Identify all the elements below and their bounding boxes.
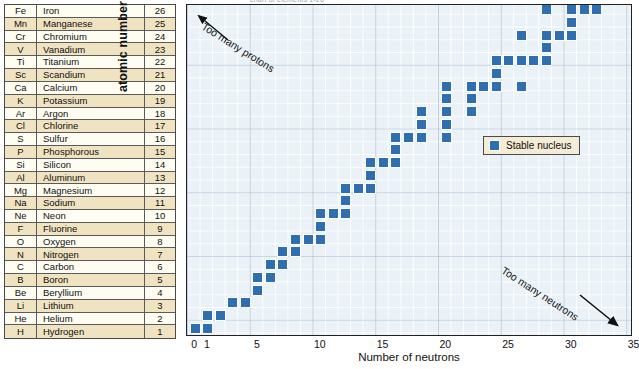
data-point: [466, 81, 477, 92]
element-name: Sulfur: [37, 133, 145, 145]
element-name: Silicon: [37, 159, 145, 171]
element-atomic-number: 17: [145, 120, 175, 132]
data-point: [466, 106, 477, 117]
table-row: BBoron5: [5, 274, 175, 287]
element-atomic-number: 20: [145, 82, 175, 94]
element-name: Nitrogen: [37, 248, 145, 260]
element-table: FeIron26MnManganese25CrChromium24VVanadi…: [4, 4, 176, 339]
x-tick-label: 10: [314, 338, 326, 350]
element-atomic-number: 1: [145, 325, 175, 338]
element-name: Fluorine: [37, 223, 145, 235]
element-symbol: C: [5, 261, 37, 273]
x-tick-label: 5: [254, 338, 260, 350]
element-atomic-number: 14: [145, 159, 175, 171]
table-row: FeIron26: [5, 5, 175, 18]
data-point: [315, 234, 326, 245]
data-point: [252, 272, 263, 283]
data-point: [328, 208, 339, 219]
element-name: Oxygen: [37, 236, 145, 248]
table-row: HeHelium2: [5, 313, 175, 326]
element-name: Beryllium: [37, 287, 145, 299]
element-symbol: Al: [5, 172, 37, 184]
data-point: [541, 4, 552, 15]
table-row: VVanadium23: [5, 43, 175, 56]
element-atomic-number: 5: [145, 274, 175, 286]
element-symbol: F: [5, 223, 37, 235]
element-name: Phosphorous: [37, 146, 145, 158]
data-point: [215, 310, 226, 321]
element-name: Chlorine: [37, 120, 145, 132]
element-symbol: Ar: [5, 108, 37, 120]
element-symbol: H: [5, 325, 37, 338]
element-name: Carbon: [37, 261, 145, 273]
element-atomic-number: 23: [145, 43, 175, 55]
element-atomic-number: 26: [145, 5, 175, 17]
element-atomic-number: 18: [145, 108, 175, 120]
table-row: CCarbon6: [5, 261, 175, 274]
y-axis-label: atomic number: [116, 1, 130, 92]
element-atomic-number: 9: [145, 223, 175, 235]
table-row: ArArgon18: [5, 108, 175, 121]
table-row: MnManganese25: [5, 18, 175, 31]
data-point: [528, 55, 539, 66]
table-row: CrChromium24: [5, 31, 175, 44]
x-tick-label: 1: [204, 338, 210, 350]
element-symbol: Mn: [5, 18, 37, 30]
table-row: OOxygen8: [5, 236, 175, 249]
data-point: [416, 119, 427, 130]
data-point: [390, 144, 401, 155]
data-point: [190, 323, 201, 334]
element-name: Boron: [37, 274, 145, 286]
data-point: [441, 106, 452, 117]
element-name: Argon: [37, 108, 145, 120]
table-row: NeNeon10: [5, 210, 175, 223]
x-tick-label: 20: [439, 338, 451, 350]
data-point: [265, 259, 276, 270]
legend: Stable nucleus: [483, 136, 580, 155]
element-atomic-number: 21: [145, 69, 175, 81]
element-symbol: Cl: [5, 120, 37, 132]
data-point: [566, 17, 577, 28]
element-symbol: N: [5, 248, 37, 260]
element-name: Sodium: [37, 197, 145, 209]
data-point: [541, 55, 552, 66]
x-tick-label: 0: [191, 338, 197, 350]
element-atomic-number: 22: [145, 56, 175, 68]
data-point: [554, 30, 565, 41]
table-row: AlAluminum13: [5, 172, 175, 185]
element-symbol: He: [5, 313, 37, 325]
table-row: NaSodium11: [5, 197, 175, 210]
element-name: Hydrogen: [37, 325, 145, 338]
data-point: [390, 132, 401, 143]
element-atomic-number: 6: [145, 261, 175, 273]
data-point: [491, 81, 502, 92]
element-symbol: P: [5, 146, 37, 158]
data-point: [416, 106, 427, 117]
element-atomic-number: 10: [145, 210, 175, 222]
element-symbol: Na: [5, 197, 37, 209]
data-point: [416, 132, 427, 143]
element-symbol: Be: [5, 287, 37, 299]
table-row: NNitrogen7: [5, 248, 175, 261]
data-point: [541, 42, 552, 53]
data-point: [265, 272, 276, 283]
data-point: [202, 323, 213, 334]
element-symbol: Ca: [5, 82, 37, 94]
data-point: [240, 297, 251, 308]
element-symbol: S: [5, 133, 37, 145]
element-atomic-number: 25: [145, 18, 175, 30]
legend-label: Stable nucleus: [506, 140, 572, 151]
element-symbol: Sc: [5, 69, 37, 81]
element-atomic-number: 8: [145, 236, 175, 248]
data-point: [516, 81, 527, 92]
data-point: [290, 234, 301, 245]
data-point: [315, 221, 326, 232]
x-tick-label: 25: [502, 338, 514, 350]
data-point: [441, 119, 452, 130]
element-name: Potassium: [37, 95, 145, 107]
data-point: [252, 285, 263, 296]
data-point: [441, 93, 452, 104]
element-atomic-number: 4: [145, 287, 175, 299]
data-point: [365, 157, 376, 168]
element-symbol: Si: [5, 159, 37, 171]
